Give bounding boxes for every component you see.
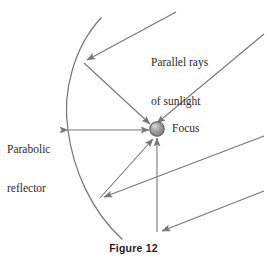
figure-parabolic-reflector: Parallel rays of sunlight Parabolic refl… (0, 0, 267, 265)
label-parabolic-line2: reflector (7, 182, 50, 195)
reflected-ray-top (84, 63, 150, 124)
incoming-ray-4 (162, 191, 264, 231)
parabola-curve (66, 18, 122, 239)
reflected-rays-to-focus (68, 63, 157, 232)
label-parallel-rays-line2: of sunlight (151, 95, 208, 108)
reflected-ray-lower (100, 139, 153, 198)
label-parallel-rays-line1: Parallel rays (151, 56, 208, 69)
label-parabolic-reflector: Parabolic reflector (7, 117, 50, 221)
label-parabolic-line1: Parabolic (7, 143, 50, 156)
label-focus: Focus (172, 122, 199, 135)
label-parallel-rays-of-sunlight: Parallel rays of sunlight (151, 30, 208, 134)
figure-caption: Figure 12 (0, 242, 267, 254)
